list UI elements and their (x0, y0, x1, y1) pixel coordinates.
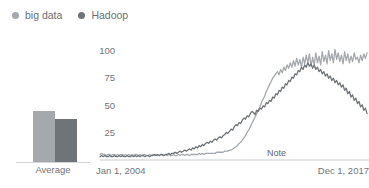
trends-chart-widget: big data Hadoop Average 100755025 Note J… (0, 0, 369, 188)
x-axis-end-label: Dec 1, 2017 (318, 165, 369, 177)
series-line-big-data (100, 50, 367, 156)
line-chart[interactable]: 100755025 Note Jan 1, 2004 Dec 1, 2017 (86, 30, 369, 188)
legend-item-big-data[interactable]: big data (12, 9, 62, 21)
y-axis-tick-100: 100 (99, 45, 115, 56)
average-bar-big-data[interactable] (33, 111, 55, 162)
legend-dot-big-data-icon (12, 12, 19, 19)
average-label: Average (16, 164, 90, 176)
average-axis-line (16, 162, 90, 163)
average-bar-widget: Average (16, 100, 90, 180)
x-axis-start-label: Jan 1, 2004 (96, 165, 146, 177)
series-line-Hadoop (100, 63, 367, 157)
average-bar-Hadoop[interactable] (55, 119, 77, 162)
note-label: Note (267, 148, 286, 159)
legend-label-hadoop: Hadoop (91, 9, 128, 21)
y-axis-tick-25: 25 (104, 127, 115, 138)
y-axis-tick-50: 50 (104, 100, 115, 111)
y-axis-tick-75: 75 (104, 72, 115, 83)
legend-dot-hadoop-icon (78, 12, 85, 19)
legend-item-hadoop[interactable]: Hadoop (78, 9, 128, 21)
chart-legend: big data Hadoop (12, 6, 128, 24)
chart-series-group (100, 50, 367, 157)
legend-label-big-data: big data (25, 9, 62, 21)
average-bars (16, 100, 90, 162)
